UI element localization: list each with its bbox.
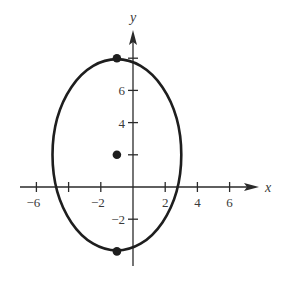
x-tick-label: 4 bbox=[194, 195, 201, 210]
bottom-vertex-point bbox=[113, 247, 122, 256]
ellipse-chart: −6−2246−246 x y bbox=[0, 0, 292, 281]
y-axis-label: y bbox=[128, 10, 137, 25]
y-tick-label: 4 bbox=[119, 116, 126, 131]
top-vertex-point bbox=[113, 54, 122, 63]
center-point bbox=[113, 151, 122, 160]
x-tick-label: 2 bbox=[162, 195, 169, 210]
x-tick-label: −2 bbox=[91, 195, 105, 210]
y-tick-label: −2 bbox=[111, 212, 125, 227]
x-axis-label: x bbox=[264, 180, 272, 195]
x-tick-label: 6 bbox=[226, 195, 233, 210]
y-tick-label: 6 bbox=[119, 83, 126, 98]
x-tick-label: −6 bbox=[26, 195, 40, 210]
